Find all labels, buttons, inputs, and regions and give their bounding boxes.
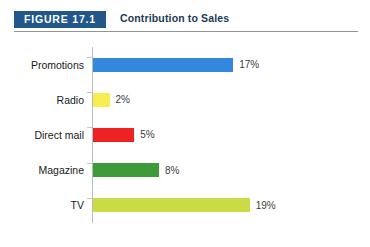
category-label: Radio	[0, 94, 84, 106]
bar	[93, 163, 159, 177]
bar	[93, 198, 250, 212]
bar	[93, 128, 134, 142]
category-label: Direct mail	[0, 129, 84, 141]
bar	[93, 93, 110, 107]
bar-row: Promotions17%	[0, 47, 370, 82]
bar-value-label: 8%	[165, 165, 179, 176]
bar-value-label: 5%	[140, 129, 154, 140]
category-label: Magazine	[0, 164, 84, 176]
bar-row: Magazine8%	[0, 153, 370, 188]
bar-row: Direct mail5%	[0, 117, 370, 152]
category-label: TV	[0, 199, 84, 211]
category-label: Promotions	[0, 59, 84, 71]
bar-value-label: 2%	[116, 94, 130, 105]
figure-header: FIGURE 17.1 Contribution to Sales	[0, 0, 370, 34]
bar	[93, 58, 233, 72]
header-divider	[14, 31, 358, 32]
bar-value-label: 17%	[239, 59, 259, 70]
bar-row: Radio2%	[0, 82, 370, 117]
figure-title: Contribution to Sales	[120, 12, 229, 24]
figure-number-badge: FIGURE 17.1	[14, 11, 106, 28]
figure-number-label: FIGURE 17.1	[24, 14, 96, 25]
bar-value-label: 19%	[256, 200, 276, 211]
bar-chart: Promotions17%Radio2%Direct mail5%Magazin…	[0, 40, 370, 240]
bar-row: TV19%	[0, 188, 370, 223]
